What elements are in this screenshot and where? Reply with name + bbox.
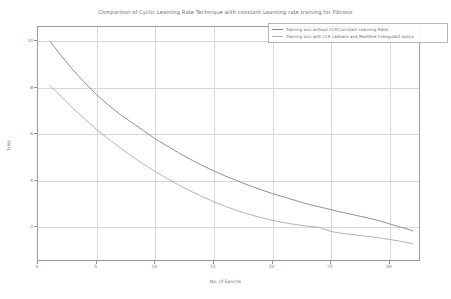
chart-legend: Training loss without CLR(Constant Learn… <box>268 23 448 43</box>
x-tick-label: 15 <box>210 264 216 269</box>
y-tick-label: 10 <box>19 38 33 43</box>
y-tick-mark <box>34 40 37 41</box>
x-tick-label: 5 <box>94 264 97 269</box>
y-tick-mark <box>34 180 37 181</box>
x-tick-label: 0 <box>36 264 39 269</box>
legend-item: Training loss with CLR callback and Modi… <box>272 33 444 40</box>
y-tick-label: 2 <box>19 224 33 229</box>
plot-area <box>37 26 420 261</box>
x-tick-mark <box>213 261 214 264</box>
series-lines <box>38 27 419 260</box>
x-tick-mark <box>154 261 155 264</box>
legend-swatch-series-2 <box>272 36 283 37</box>
x-tick-label: 30 <box>386 264 392 269</box>
y-tick-label: 8 <box>19 84 33 89</box>
x-tick-mark <box>272 261 273 264</box>
chart-title: Comparison of Cyclic Learning Rate Techn… <box>0 9 451 15</box>
x-tick-mark <box>96 261 97 264</box>
y-tick-mark <box>34 133 37 134</box>
legend-label-series-2: Training loss with CLR callback and Modi… <box>286 34 414 39</box>
legend-swatch-series-1 <box>272 29 283 30</box>
legend-label-series-1: Training loss without CLR(Constant Learn… <box>286 27 389 32</box>
x-tick-label: 10 <box>151 264 157 269</box>
x-tick-mark <box>330 261 331 264</box>
x-tick-label: 20 <box>269 264 275 269</box>
y-tick-label: 4 <box>19 177 33 182</box>
series-line-2 <box>50 85 413 243</box>
y-axis-label: Loss <box>6 126 11 166</box>
x-axis-label: No. of Epochs <box>0 279 451 284</box>
chart-figure: Comparison of Cyclic Learning Rate Techn… <box>0 0 451 299</box>
legend-item: Training loss without CLR(Constant Learn… <box>272 26 444 33</box>
x-tick-mark <box>389 261 390 264</box>
y-tick-mark <box>34 226 37 227</box>
y-tick-mark <box>34 87 37 88</box>
x-tick-label: 25 <box>327 264 333 269</box>
x-tick-mark <box>37 261 38 264</box>
y-tick-label: 6 <box>19 131 33 136</box>
